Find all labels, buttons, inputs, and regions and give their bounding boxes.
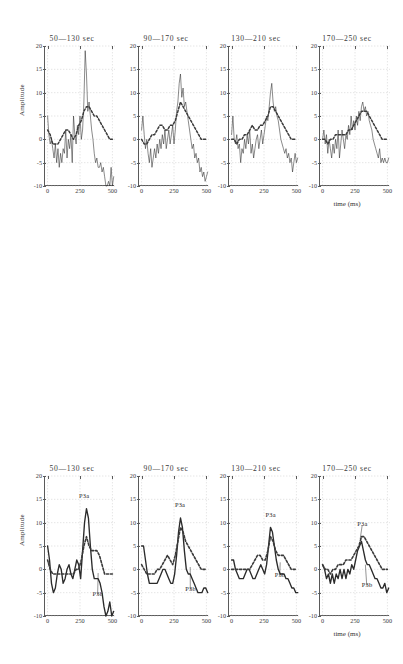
x-axis-tick-label: 0 [321, 188, 324, 194]
y-axis-tick-label: -10 [34, 183, 42, 189]
y-axis-tick-label: 10 [220, 90, 226, 96]
y-axis-tick-mark [137, 116, 140, 117]
plot-area: -10-5051015200250500 [138, 46, 208, 186]
y-axis-tick-mark [137, 69, 140, 70]
x-axis-tick-label: 250 [75, 188, 84, 194]
y-axis-tick-label: 20 [311, 43, 317, 49]
y-axis-tick-mark [43, 116, 46, 117]
plot-canvas [229, 46, 299, 186]
y-axis-tick-label: -10 [309, 183, 317, 189]
y-axis-tick-label: -5 [221, 160, 226, 166]
y-axis-tick-label: 20 [36, 43, 42, 49]
y-axis-tick-mark [43, 69, 46, 70]
chart-panel: 170—250 sec-10-5051015200250500time (ms) [299, 18, 395, 233]
y-axis-tick-mark [318, 116, 321, 117]
x-axis-tick-label: 0 [140, 188, 143, 194]
y-axis-tick-label: 15 [311, 66, 317, 72]
y-axis-tick-label: -10 [218, 183, 226, 189]
chart-panel: 130—210 sec-10-5051015200250500 [208, 18, 304, 233]
y-axis-tick-label: -10 [128, 183, 136, 189]
x-axis-tick-label: 0 [230, 188, 233, 194]
y-axis-tick-mark [43, 139, 46, 140]
trace-solid [48, 51, 114, 186]
y-axis-tick-label: 10 [130, 90, 136, 96]
x-axis-tick-label: 0 [46, 188, 49, 194]
plot-area: -10-5051015200250500 [319, 46, 389, 186]
x-axis-tick-mark [355, 46, 356, 49]
y-axis-tick-mark [43, 46, 46, 47]
plot-canvas [320, 46, 390, 186]
plot-canvas [139, 46, 209, 186]
plot-area: -10-5051015200250500 [228, 46, 298, 186]
figure-row-1: 50—130 sec-10-5051015200250500Amplitude9… [0, 0, 403, 215]
x-axis-tick-mark [232, 46, 233, 49]
y-axis-label: Amplitude [18, 84, 26, 116]
x-axis-tick-label: 250 [350, 188, 359, 194]
y-axis-tick-mark [227, 116, 230, 117]
figure-row-3: 50—130 secP3a-10-505101520250250500Ampli… [0, 430, 403, 645]
trace-solid [142, 74, 208, 181]
plot-area: -10-5051015200250500 [44, 46, 114, 186]
y-axis-tick-mark [227, 163, 230, 164]
chart-panel: 90—170 sec-10-5051015200250500 [118, 18, 214, 233]
y-axis-tick-label: -5 [37, 160, 42, 166]
y-axis-tick-mark [227, 46, 230, 47]
y-axis-tick-label: -5 [312, 160, 317, 166]
y-axis-tick-mark [43, 163, 46, 164]
y-axis-tick-mark [318, 46, 321, 47]
erp-figure-panel-grid: 50—130 sec-10-5051015200250500Amplitude9… [0, 0, 403, 664]
figure-row-2: 50—130 secP3aP3b-10-5051015200250500Ampl… [0, 215, 403, 430]
y-axis-tick-mark [318, 69, 321, 70]
y-axis-tick-mark [137, 46, 140, 47]
x-axis-tick-label: 500 [383, 188, 392, 194]
x-axis-tick-label: 250 [169, 188, 178, 194]
y-axis-tick-label: 15 [36, 66, 42, 72]
x-axis-tick-label: 500 [108, 188, 117, 194]
y-axis-tick-mark [137, 139, 140, 140]
x-axis-tick-mark [323, 46, 324, 49]
y-axis-tick-label: -5 [131, 160, 136, 166]
trace-solid [232, 83, 298, 172]
y-axis-tick-mark [318, 93, 321, 94]
y-axis-tick-label: 10 [36, 90, 42, 96]
y-axis-tick-label: 15 [130, 66, 136, 72]
x-axis-tick-mark [264, 46, 265, 49]
y-axis-tick-mark [318, 139, 321, 140]
x-axis-tick-mark [387, 46, 388, 49]
x-axis-tick-mark [296, 46, 297, 49]
x-axis-tick-label: 250 [259, 188, 268, 194]
y-axis-tick-mark [137, 163, 140, 164]
y-axis-tick-mark [227, 93, 230, 94]
y-axis-tick-label: 20 [220, 43, 226, 49]
x-axis-tick-mark [142, 46, 143, 49]
chart-panel: 50—130 sec-10-5051015200250500Amplitude [24, 18, 120, 233]
y-axis-tick-label: 10 [311, 90, 317, 96]
x-axis-tick-mark [174, 46, 175, 49]
x-axis-tick-mark [48, 46, 49, 49]
x-axis-tick-mark [112, 46, 113, 49]
y-axis-tick-label: 20 [130, 43, 136, 49]
x-axis-label: time (ms) [299, 200, 395, 208]
x-axis-tick-mark [80, 46, 81, 49]
y-axis-tick-mark [227, 139, 230, 140]
y-axis-tick-mark [137, 93, 140, 94]
y-axis-tick-mark [318, 163, 321, 164]
y-axis-tick-mark [227, 69, 230, 70]
trace-dashed [142, 102, 207, 144]
y-axis-tick-label: 15 [220, 66, 226, 72]
plot-canvas [45, 46, 115, 186]
y-axis-tick-mark [43, 93, 46, 94]
